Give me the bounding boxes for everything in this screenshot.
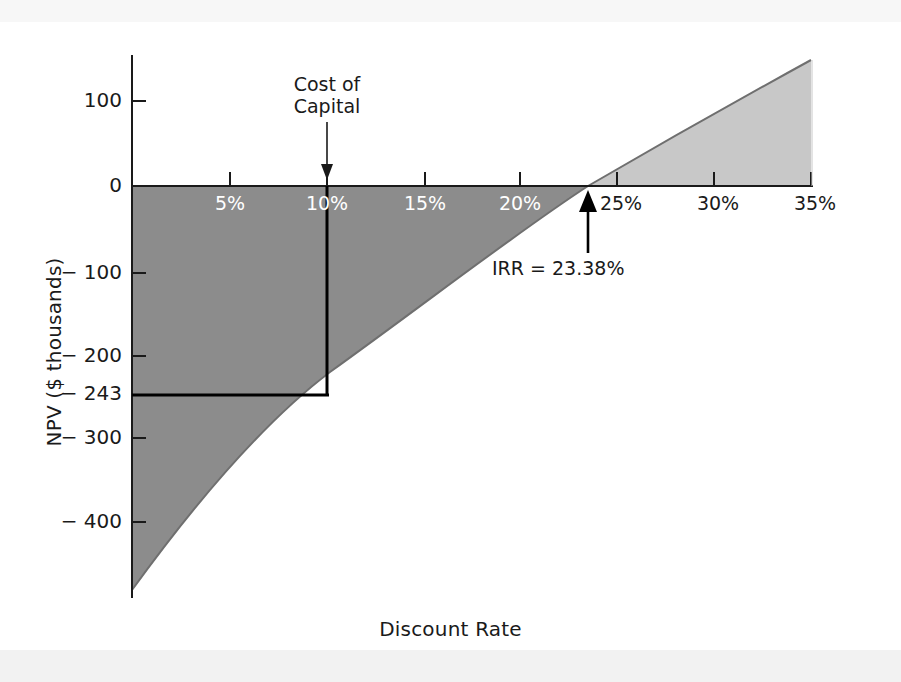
y-axis-title: NPV ($ thousands) [42,202,66,502]
npv-profile-figure: 100 0 − 100 − 200 − 243 − 300 − 400 5% 1… [0,0,901,682]
npv-profile-plot [0,0,901,682]
y-tick-label-minus-400: − 400 [12,509,122,533]
x-tick-label-25: 25% [581,192,661,214]
x-tick-label-20: 20% [480,192,560,214]
cost-of-capital-arrow-icon [321,122,333,180]
y-tick-label-minus-243: − 243 [12,381,122,405]
x-tick-label-15: 15% [385,192,465,214]
y-tick-label-minus-100: − 100 [12,260,122,284]
x-tick-label-30: 30% [678,192,758,214]
x-tick-label-35: 35% [775,192,855,214]
cost-of-capital-annotation: Cost of Capital [266,74,388,118]
y-tick-label-minus-200: − 200 [12,343,122,367]
x-tick-label-10: 10% [287,192,367,214]
negative-npv-area [132,186,811,590]
irr-annotation: IRR = 23.38% [492,258,692,280]
cost-of-capital-line-1: Cost of [266,74,388,96]
y-tick-label-0: 0 [30,173,122,197]
y-tick-label-minus-300: − 300 [12,425,122,449]
cost-of-capital-line-2: Capital [266,96,388,118]
x-axis-title: Discount Rate [0,617,901,641]
x-tick-label-5: 5% [194,192,266,214]
y-tick-label-100: 100 [30,88,122,112]
